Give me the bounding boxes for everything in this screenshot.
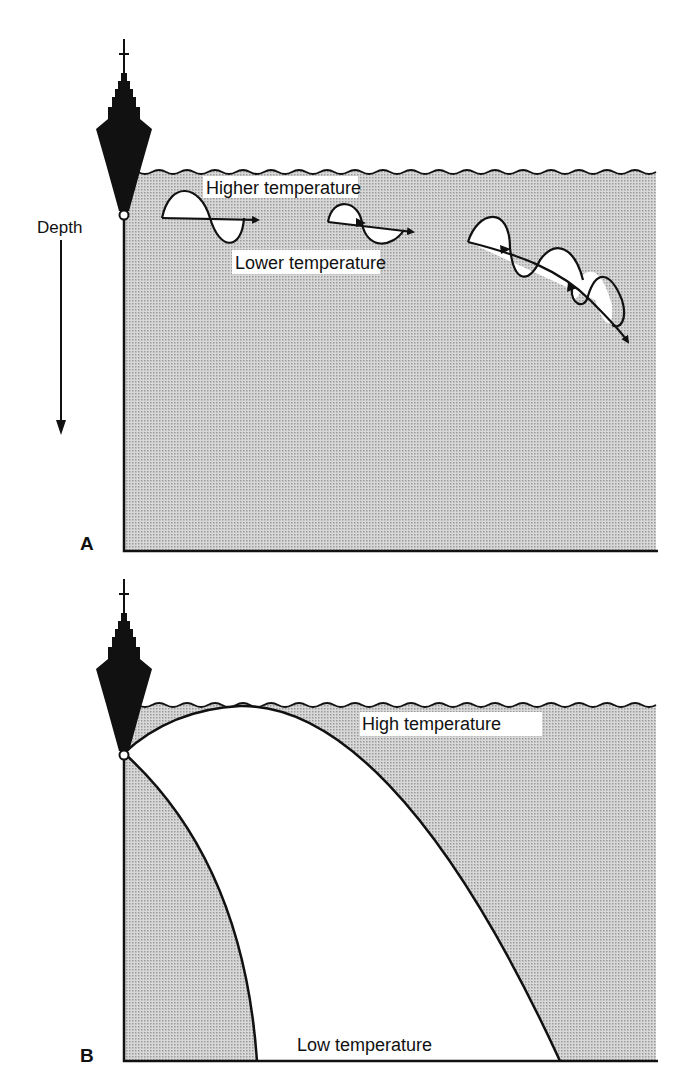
panel-a: Depth Higher temperature Lower temperatu…: [37, 39, 658, 554]
sonar-refraction-diagram: Depth Higher temperature Lower temperatu…: [0, 0, 690, 1081]
panel-b: High temperature Low temperature B: [80, 579, 658, 1066]
water-region-a: [124, 170, 656, 551]
lower-temperature-label: Lower temperature: [235, 253, 386, 273]
panel-b-label: B: [80, 1045, 94, 1066]
depth-arrowhead-icon: [56, 420, 66, 435]
panel-a-label: A: [80, 533, 94, 554]
higher-temperature-label: Higher temperature: [206, 178, 361, 198]
low-temperature-label: Low temperature: [297, 1035, 432, 1055]
high-temperature-label: High temperature: [362, 714, 501, 734]
depth-label: Depth: [37, 218, 82, 237]
